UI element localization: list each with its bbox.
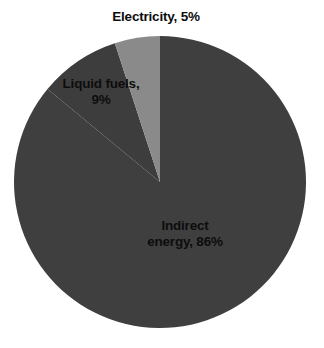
pie-chart: Electricity, 5% Liquid fuels, 9% Indirec… [0, 0, 324, 348]
pie-chart-graphic [0, 0, 324, 348]
pie-label-electricity: Electricity, 5% [0, 9, 318, 25]
pie-label-indirect-energy-line2: energy, 86% [112, 234, 258, 250]
pie-label-liquid-fuels-line1: Liquid fuels, [20, 76, 182, 92]
pie-label-liquid-fuels-line2: 9% [20, 92, 182, 108]
pie-label-indirect-energy-line1: Indirect [112, 218, 258, 234]
pie-label-indirect-energy: Indirect energy, 86% [112, 218, 258, 250]
pie-label-electricity-text: Electricity, 5% [0, 9, 318, 25]
pie-label-liquid-fuels: Liquid fuels, 9% [20, 76, 182, 108]
